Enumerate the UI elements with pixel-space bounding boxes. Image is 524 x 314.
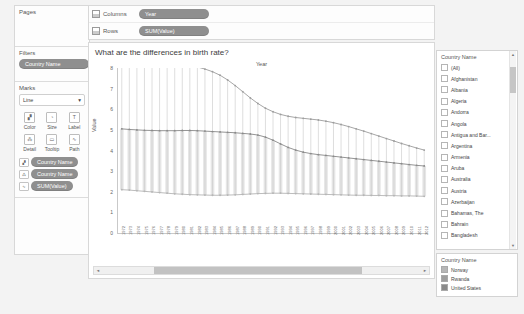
data-point[interactable]	[189, 130, 191, 132]
data-point[interactable]	[401, 195, 403, 197]
data-point[interactable]	[416, 147, 418, 149]
filter-list-item[interactable]: Austria	[437, 185, 517, 196]
marks-pill-label[interactable]: Country Name	[31, 157, 78, 167]
data-point[interactable]	[265, 136, 267, 138]
data-point[interactable]	[234, 132, 236, 134]
data-point[interactable]	[272, 139, 274, 141]
data-point[interactable]	[204, 194, 206, 196]
checkbox-icon[interactable]	[441, 176, 448, 183]
checkbox-icon[interactable]	[441, 232, 448, 239]
filter-list-item[interactable]: Bangladesh	[437, 230, 517, 240]
filter-list-item[interactable]: Aruba	[437, 163, 517, 174]
mark-button-path[interactable]: ∿ Path	[64, 132, 85, 153]
columns-pill-year[interactable]: Year	[139, 9, 209, 19]
data-point[interactable]	[340, 124, 342, 126]
legend-item[interactable]: Rwanda	[437, 274, 517, 283]
filter-list-item[interactable]: Azerbaijan	[437, 196, 517, 207]
columns-shelf[interactable]: Columns Year	[89, 6, 434, 23]
checkbox-icon[interactable]	[441, 210, 448, 217]
scroll-right-arrow-icon[interactable]: ►	[421, 267, 429, 274]
mark-button-tooltip[interactable]: ▭ Tooltip	[41, 132, 62, 153]
horizontal-scrollbar[interactable]: ◄ ►	[93, 266, 430, 275]
data-point[interactable]	[302, 117, 304, 119]
scroll-left-arrow-icon[interactable]: ◄	[94, 267, 102, 274]
data-point[interactable]	[287, 115, 289, 117]
rows-shelf[interactable]: Rows SUM(Value)	[89, 23, 434, 39]
data-point[interactable]	[257, 134, 259, 136]
checkbox-icon[interactable]	[441, 154, 448, 161]
pages-card[interactable]: Pages	[15, 6, 89, 47]
scroll-down-arrow-icon[interactable]: ▼	[510, 242, 516, 249]
data-point[interactable]	[317, 193, 319, 195]
data-point[interactable]	[302, 151, 304, 153]
checkbox-icon[interactable]	[441, 187, 448, 194]
data-point[interactable]	[333, 194, 335, 196]
data-point[interactable]	[348, 194, 350, 196]
data-point[interactable]	[272, 111, 274, 113]
filter-list-item[interactable]: Algeria	[437, 96, 517, 107]
data-point[interactable]	[378, 195, 380, 197]
data-point[interactable]	[280, 114, 282, 116]
scrollbar-thumb[interactable]	[510, 67, 516, 93]
data-point[interactable]	[249, 97, 251, 99]
marks-pill-label[interactable]: Country Name	[31, 169, 78, 179]
data-point[interactable]	[249, 133, 251, 135]
data-point[interactable]	[212, 71, 214, 73]
data-point[interactable]	[340, 194, 342, 196]
chart-plot-area[interactable]	[117, 68, 428, 234]
filter-list-item[interactable]: Bahamas, The	[437, 207, 517, 218]
data-point[interactable]	[265, 193, 267, 195]
data-point[interactable]	[378, 160, 380, 162]
data-point[interactable]	[393, 140, 395, 142]
data-point[interactable]	[257, 193, 259, 195]
data-point[interactable]	[370, 195, 372, 197]
data-point[interactable]	[280, 192, 282, 194]
data-point[interactable]	[174, 130, 176, 132]
data-point[interactable]	[385, 195, 387, 197]
checkbox-icon[interactable]	[441, 109, 448, 116]
filter-vertical-scrollbar[interactable]: ▲ ▼	[509, 51, 516, 249]
data-point[interactable]	[333, 155, 335, 157]
data-point[interactable]	[174, 193, 176, 195]
mark-button-label[interactable]: T Label	[64, 110, 85, 131]
data-point[interactable]	[295, 117, 297, 119]
data-point[interactable]	[287, 193, 289, 195]
data-point[interactable]	[159, 130, 161, 132]
data-point[interactable]	[340, 156, 342, 158]
data-point[interactable]	[166, 130, 168, 132]
data-point[interactable]	[136, 129, 138, 131]
data-point[interactable]	[234, 85, 236, 87]
data-point[interactable]	[355, 128, 357, 130]
checkbox-icon[interactable]	[441, 120, 448, 127]
mark-button-size[interactable]: ◔ Size	[41, 110, 62, 131]
data-point[interactable]	[227, 131, 229, 133]
legend-item[interactable]: Norway	[437, 265, 517, 274]
data-point[interactable]	[234, 194, 236, 196]
data-point[interactable]	[212, 131, 214, 133]
data-point[interactable]	[370, 133, 372, 135]
data-point[interactable]	[295, 193, 297, 195]
data-point[interactable]	[151, 191, 153, 193]
filter-list-item[interactable]: Afghanistan	[437, 73, 517, 84]
scroll-up-arrow-icon[interactable]: ▲	[510, 51, 516, 58]
rows-pill-sum-value[interactable]: SUM(Value)	[139, 26, 209, 36]
checkbox-icon[interactable]	[441, 142, 448, 149]
data-point[interactable]	[393, 195, 395, 197]
filter-pill-country-name[interactable]: Country Name	[19, 59, 89, 69]
filter-list-item[interactable]: Australia	[437, 174, 517, 185]
data-point[interactable]	[348, 126, 350, 128]
data-point[interactable]	[416, 164, 418, 166]
data-point[interactable]	[310, 118, 312, 120]
data-point[interactable]	[189, 194, 191, 196]
data-point[interactable]	[310, 193, 312, 195]
checkbox-icon[interactable]	[441, 64, 448, 71]
data-point[interactable]	[317, 119, 319, 121]
data-point[interactable]	[227, 79, 229, 81]
data-point[interactable]	[121, 128, 123, 130]
data-point[interactable]	[363, 194, 365, 196]
data-point[interactable]	[196, 194, 198, 196]
data-point[interactable]	[287, 147, 289, 149]
data-point[interactable]	[136, 190, 138, 192]
data-point[interactable]	[408, 164, 410, 166]
checkbox-icon[interactable]	[441, 75, 448, 82]
